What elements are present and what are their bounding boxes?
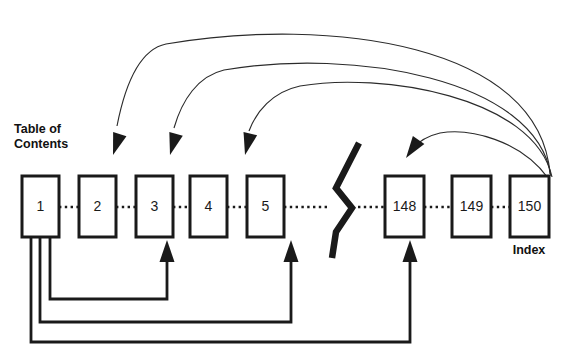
arc-index-to-page3 bbox=[174, 63, 551, 176]
table-of-contents-label-line2: Contents bbox=[14, 137, 68, 151]
toc-to-page3-line bbox=[50, 238, 167, 299]
table-of-contents-label-line1: Table of bbox=[14, 122, 62, 136]
toc-arrow-group bbox=[31, 238, 418, 342]
arrowhead-index-to-page148 bbox=[406, 136, 424, 158]
page-break-zigzag-icon bbox=[332, 143, 359, 258]
book-navigation-diagram: 12345148149150 Table of Contents Index bbox=[0, 0, 564, 357]
page-number-3: 3 bbox=[151, 198, 159, 214]
page-number-149: 149 bbox=[460, 198, 484, 214]
page-number-148: 148 bbox=[393, 198, 417, 214]
page-number-2: 2 bbox=[94, 198, 102, 214]
page-number-1: 1 bbox=[37, 198, 45, 214]
arrowhead-index-to-page2 bbox=[113, 132, 126, 155]
arrowhead-index-to-page5 bbox=[244, 132, 258, 155]
diagram-canvas: 12345148149150 Table of Contents Index bbox=[0, 0, 564, 357]
arc-index-to-page2 bbox=[117, 34, 550, 174]
index-arc-group bbox=[113, 34, 552, 178]
arrowhead-toc-to-page3 bbox=[160, 240, 175, 262]
page-number-5: 5 bbox=[262, 198, 270, 214]
arc-index-to-page148 bbox=[412, 132, 548, 178]
arrowhead-toc-to-page5 bbox=[284, 240, 299, 262]
index-label: Index bbox=[513, 243, 546, 257]
toc-to-page148-line bbox=[31, 238, 410, 342]
arc-index-to-page5 bbox=[249, 82, 552, 177]
page-box-group: 12345148149150 bbox=[22, 176, 549, 237]
page-number-150: 150 bbox=[518, 198, 542, 214]
page-number-4: 4 bbox=[205, 198, 213, 214]
arrowhead-toc-to-page148 bbox=[403, 240, 418, 262]
arrowhead-index-to-page3 bbox=[169, 132, 182, 155]
